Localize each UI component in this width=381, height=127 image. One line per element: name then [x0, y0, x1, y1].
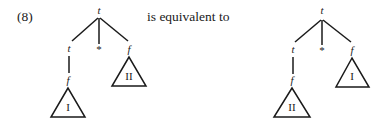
left-tree: t t * f f I II: [51, 4, 146, 117]
right-child-f-node: f: [350, 44, 355, 56]
left-star-node: *: [96, 43, 102, 55]
right-star-node: *: [319, 44, 325, 56]
right-grandchild-f-node: f: [290, 74, 295, 86]
left-grandchild-f-node: f: [66, 74, 71, 86]
left-root-node: t: [97, 4, 101, 16]
left-subtree-label-I: I: [66, 101, 70, 113]
right-edge-root-t: [295, 20, 321, 42]
left-child-f-node: f: [127, 43, 132, 55]
tree-diagrams: t t * f f I II t t * f f II I: [0, 0, 381, 127]
right-subtree-label-I: I: [350, 70, 354, 82]
right-child-t-node: t: [291, 43, 295, 55]
right-root-node: t: [320, 4, 324, 16]
right-subtree-label-II: II: [288, 101, 296, 113]
left-edge-root-f: [100, 18, 128, 41]
left-child-t-node: t: [67, 42, 71, 54]
right-edge-root-f: [323, 20, 351, 42]
right-tree: t t * f f II I: [274, 4, 369, 117]
left-subtree-label-II: II: [125, 70, 133, 82]
left-edge-root-t: [72, 18, 98, 41]
